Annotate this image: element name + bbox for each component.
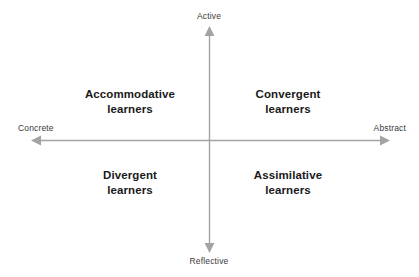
quadrant-label-divergent: Divergent learners [103,168,157,198]
quadrant-label-accommodative: Accommodative learners [85,87,175,117]
axis-label-active: Active [197,11,221,21]
quadrant-label-convergent: Convergent learners [256,87,321,117]
quadrant-label-line-2: learners [254,183,322,198]
quadrant-label-line-1: Assimilative [254,168,322,183]
quadrant-label-line-2: learners [103,183,157,198]
quadrant-label-line-1: Divergent [103,168,157,183]
quadrant-label-line-1: Accommodative [85,87,175,102]
quadrant-label-line-2: learners [85,102,175,117]
quadrant-label-line-2: learners [256,102,321,117]
arrowhead-right-icon [380,136,390,146]
axis-label-reflective: Reflective [190,256,229,266]
arrowhead-left-icon [31,136,41,146]
learning-styles-quadrant-diagram: Active Reflective Concrete Abstract Acco… [0,0,419,277]
arrowhead-up-icon [205,26,215,36]
axis-label-concrete: Concrete [18,123,54,133]
axis-label-abstract: Abstract [374,123,406,133]
arrowhead-down-icon [205,243,215,253]
quadrant-label-assimilative: Assimilative learners [254,168,322,198]
axes-group [0,0,419,277]
quadrant-label-line-1: Convergent [256,87,321,102]
